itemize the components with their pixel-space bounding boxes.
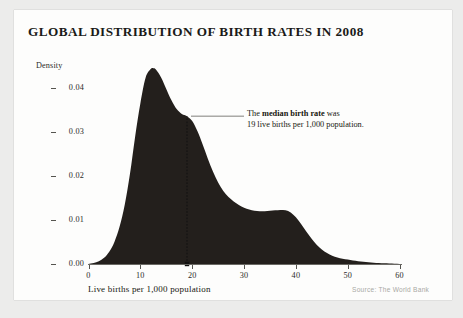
y-axis-tick-mark	[51, 220, 56, 221]
y-axis-tick: 0.02	[36, 171, 84, 181]
x-axis-tick-mark	[140, 265, 141, 269]
x-axis-tick-label: 10	[136, 271, 145, 280]
y-axis-tick: 0.01	[36, 215, 84, 225]
x-axis-tick-label: 40	[292, 271, 301, 280]
annotation-line2: 19 live births per 1,000 population.	[247, 120, 364, 129]
x-axis-tick-mark	[400, 265, 401, 269]
x-axis-title: Live births per 1,000 population	[88, 284, 211, 294]
x-axis-tick-label: 0	[86, 271, 90, 280]
x-axis-tick-mark	[296, 265, 297, 269]
y-axis-tick-mark	[51, 88, 56, 89]
annotation-line1-strong: median birth rate	[262, 109, 325, 118]
y-axis-tick-label: 0.04	[36, 83, 84, 92]
x-axis-tick-label: 50	[343, 271, 352, 280]
annotation-line1-prefix: The	[247, 109, 262, 118]
y-axis-tick-mark	[51, 264, 56, 265]
x-axis-line	[88, 264, 402, 265]
y-axis-tick-label: 0.01	[36, 215, 84, 224]
y-axis-title: Density	[36, 61, 63, 70]
x-axis-tick-label: 20	[188, 271, 197, 280]
y-axis-tick-label: 0.03	[36, 127, 84, 136]
x-axis-tick-label: 60	[395, 271, 404, 280]
y-axis-tick-mark	[51, 176, 56, 177]
annotation-line1-suffix: was	[325, 109, 340, 118]
density-chart	[0, 0, 463, 318]
source-note: Source: The World Bank	[352, 286, 429, 293]
x-axis-tick-label: 30	[240, 271, 249, 280]
y-axis-tick-label: 0.02	[36, 171, 84, 180]
y-axis-tick: 0.04	[36, 83, 84, 93]
y-axis-tick: 0.00	[36, 259, 84, 269]
median-annotation: The median birth rate was 19 live births…	[247, 108, 437, 130]
x-axis-tick-mark	[244, 265, 245, 269]
y-axis-tick-mark	[51, 132, 56, 133]
density-curve-area	[89, 68, 410, 264]
x-axis-tick-mark	[89, 265, 90, 269]
x-axis-tick-mark	[192, 265, 193, 269]
x-axis-tick-mark	[348, 265, 349, 269]
figure-page: GLOBAL DISTRIBUTION OF BIRTH RATES IN 20…	[0, 0, 463, 318]
y-axis-tick: 0.03	[36, 127, 84, 137]
y-axis-tick-label: 0.00	[36, 259, 84, 268]
